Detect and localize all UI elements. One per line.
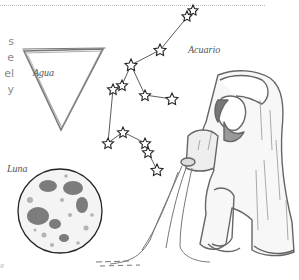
star-icon: [103, 138, 114, 149]
star-icon: [140, 90, 151, 101]
star-icon: [166, 93, 178, 105]
star-icon: [125, 59, 137, 71]
star-icon: [140, 138, 151, 149]
water-triangle-icon: [23, 48, 105, 130]
constellation-stars: [103, 5, 199, 176]
moon-illustration: [18, 169, 102, 253]
moon-label: Luna: [7, 163, 28, 174]
star-icon: [154, 44, 166, 56]
water-bearer-figure: [181, 71, 294, 256]
illustration-canvas: [0, 0, 299, 280]
water-label: Agua: [33, 67, 54, 78]
star-icon: [108, 84, 119, 95]
text-fragment: e: [0, 262, 4, 270]
star-icon: [143, 147, 154, 158]
aquarius-label: Acuario: [188, 44, 220, 55]
water-stream: [96, 166, 210, 266]
star-icon: [151, 164, 163, 176]
star-icon: [118, 127, 129, 138]
star-icon: [188, 5, 198, 15]
aquarius-constellation: [108, 10, 193, 170]
